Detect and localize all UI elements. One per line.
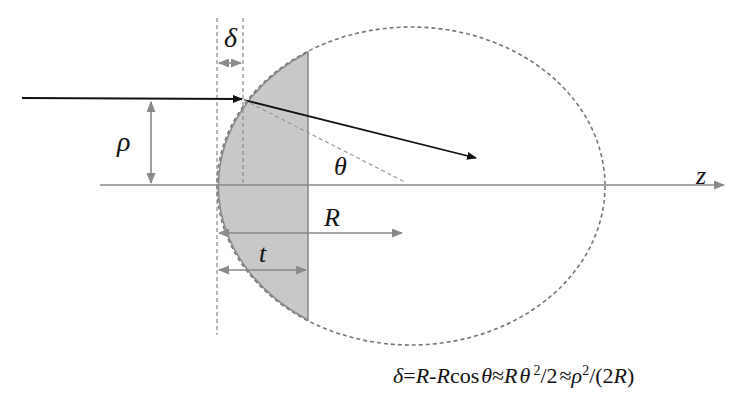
lens-body [218,52,308,320]
label-theta: θ [334,152,347,181]
label-R: R [323,203,340,232]
label-t: t [259,239,267,268]
sag-equation: δ=R-Rcosθ≈Rθ2/2≈ρ2/(2R) [393,363,634,388]
incident-ray [22,98,242,99]
lens-diagram: δ ρ θ z R t δ=R-Rcosθ≈Rθ2/2≈ρ2/(2R) [0,0,741,396]
label-z: z [695,161,706,190]
label-rho: ρ [116,126,130,157]
label-delta: δ [224,22,238,53]
